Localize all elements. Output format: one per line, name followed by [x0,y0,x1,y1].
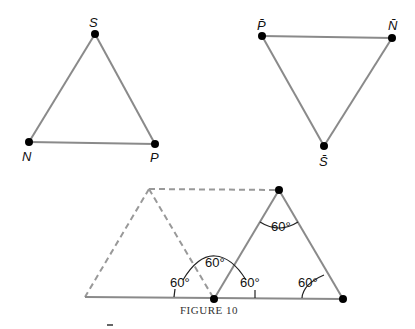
label-s: S [89,15,98,30]
vertex-top [275,186,283,194]
angle-diagram: 60° 60° 60° 60° 60° [85,186,347,303]
vertex-middle [210,295,218,303]
vertex-s [91,30,99,38]
angle-middle-top: 60° [205,255,225,270]
vertex-p [151,140,159,148]
label-s-bar: S̄ [319,154,328,169]
figure-canvas: S N P P̄ N̄ S̄ 60° 60° 60° 60° 60 [0,0,415,329]
label-p-bar: P̄ [257,18,266,33]
label-p: P [150,150,159,165]
vertex-p-bar [258,32,266,40]
figure-caption: FIGURE 10 [180,304,238,316]
label-n-bar: N̄ [388,18,398,33]
triangle-pns-bar: P̄ N̄ S̄ [257,18,398,169]
angle-right: 60° [298,275,318,290]
angle-middle: 60° [240,275,260,290]
vertex-s-bar [320,142,328,150]
vertex-right [339,295,347,303]
angle-left: 60° [170,275,190,290]
triangle-snp: S N P [22,15,159,165]
vertex-n-bar [388,34,396,42]
tick-left [174,289,175,297]
vertex-n [25,138,33,146]
label-n: N [22,149,32,164]
angle-top: 60° [271,219,291,234]
